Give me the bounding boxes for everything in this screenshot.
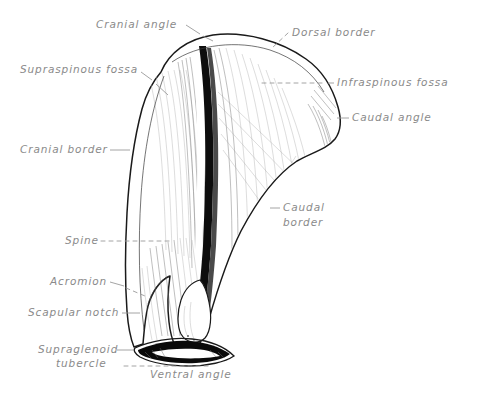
leader-cranial-angle — [186, 25, 200, 34]
scapula-figure: Cranial angle Dorsal border Supraspinous… — [0, 0, 489, 394]
label-scapular-notch: Scapular notch — [28, 306, 119, 318]
label-infraspinous-fossa: Infraspinous fossa — [337, 76, 449, 88]
label-supraglenoid-tubercle-line2: tubercle — [56, 357, 107, 369]
label-spine: Spine — [65, 234, 99, 246]
leader-acromion — [110, 282, 124, 286]
label-supraspinous-fossa: Supraspinous fossa — [20, 63, 138, 75]
label-acromion: Acromion — [49, 275, 107, 287]
label-dorsal-border: Dorsal border — [292, 26, 376, 38]
label-caudal-border-line1: Caudal — [283, 201, 325, 213]
label-ventral-angle: Ventral angle — [150, 368, 232, 380]
label-cranial-angle: Cranial angle — [96, 18, 177, 30]
label-cranial-border: Cranial border — [20, 143, 108, 155]
label-supraglenoid-tubercle-line1: Supraglenoid — [38, 343, 118, 355]
scapula-blade-outline — [126, 34, 341, 348]
label-caudal-angle: Caudal angle — [352, 111, 432, 123]
leader-supraspinous-fossa — [141, 72, 152, 80]
scapula-illustration: Cranial angle Dorsal border Supraspinous… — [0, 0, 489, 394]
label-caudal-border-line2: border — [283, 216, 323, 228]
